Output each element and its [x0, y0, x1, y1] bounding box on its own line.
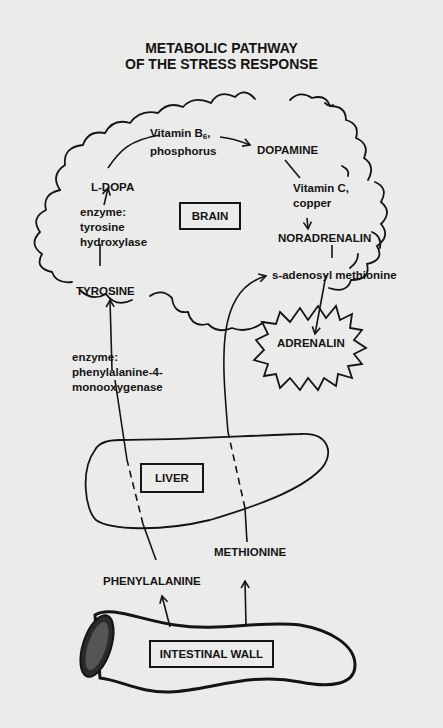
compound-adrenalin: ADRENALIN — [277, 336, 345, 350]
enzyme-name-line-2: hydroxylase — [80, 235, 147, 250]
enzyme-phenylalanine-monooxygenase: enzyme: phenylalanine-4- monooxygenase — [72, 350, 163, 395]
organ-liver-label: LIVER — [140, 463, 204, 493]
organ-intestinal-wall-label: INTESTINAL WALL — [149, 640, 274, 668]
diagram-artwork — [0, 0, 443, 728]
vitamin-b-text: Vitamin B — [150, 127, 203, 139]
enzyme-name-line-1: phenylalanine-4- — [72, 365, 163, 380]
organ-brain-label: BRAIN — [179, 202, 241, 230]
liver-outline — [86, 434, 329, 528]
compound-tyrosine: TYROSINE — [76, 284, 135, 298]
compound-noradrenalin: NORADRENALIN — [278, 231, 371, 245]
compound-methionine: METHIONINE — [214, 545, 286, 559]
enzyme-label: enzyme: — [72, 350, 163, 365]
phosphorus-text: phosphorus — [150, 145, 216, 157]
enzyme-name-line-2: monooxygenase — [72, 380, 163, 395]
enzyme-label: enzyme: — [80, 205, 147, 220]
vitamin-b-comma: , — [207, 127, 210, 139]
vitamin-c-text: Vitamin C, — [293, 181, 349, 196]
compound-l-dopa: L-DOPA — [91, 180, 134, 194]
diagram-title: METABOLIC PATHWAY OF THE STRESS RESPONSE — [0, 40, 443, 72]
enzyme-name-line-1: tyrosine — [80, 220, 147, 235]
cofactor-vitamin-c: Vitamin C, copper — [293, 181, 349, 211]
copper-text: copper — [293, 196, 349, 211]
compound-phenylalanine: PHENYLALANINE — [103, 574, 201, 588]
title-line-1: METABOLIC PATHWAY — [0, 40, 443, 56]
stress-response-diagram: METABOLIC PATHWAY OF THE STRESS RESPONSE… — [0, 0, 443, 728]
cofactor-vitamin-b6: Vitamin B6, phosphorus — [150, 126, 216, 158]
title-line-2: OF THE STRESS RESPONSE — [0, 56, 443, 72]
enzyme-tyrosine-hydroxylase: enzyme: tyrosine hydroxylase — [80, 205, 147, 250]
compound-s-adenosyl-methionine: s-adenosyl methionine — [272, 268, 397, 282]
compound-dopamine: DOPAMINE — [257, 143, 318, 157]
